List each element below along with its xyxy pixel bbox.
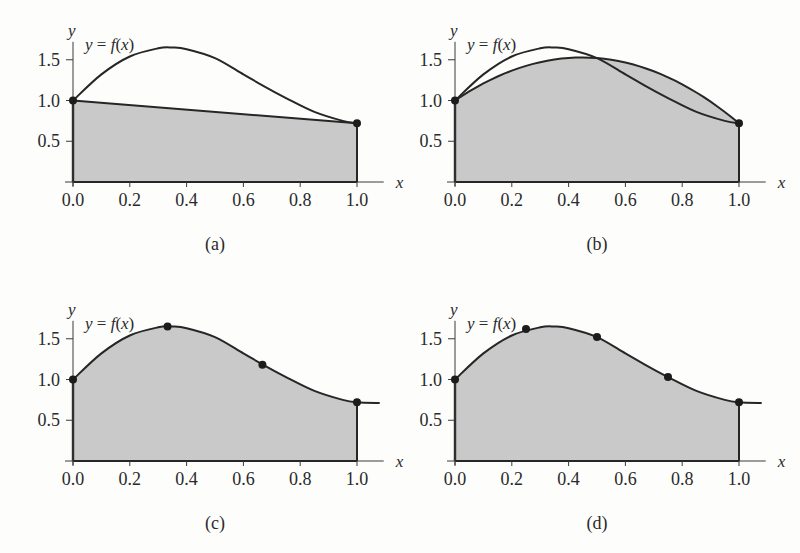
x-tick-label: 1.0	[728, 469, 751, 489]
x-tick-label: 0.2	[119, 469, 142, 489]
sample-node	[735, 398, 743, 406]
y-tick-label: 0.5	[38, 410, 61, 430]
sample-node	[522, 325, 530, 333]
x-axis-label: x	[395, 452, 404, 471]
x-tick-label: 0.0	[444, 469, 467, 489]
x-tick-label: 0.8	[671, 469, 694, 489]
x-tick-label: 0.8	[671, 190, 694, 210]
x-tick-label: 0.2	[501, 469, 524, 489]
x-tick-label: 1.0	[346, 469, 369, 489]
shaded-area	[73, 326, 357, 461]
y-tick-label: 0.5	[38, 131, 61, 151]
x-tick-label: 0.8	[289, 190, 312, 210]
panel-caption: (a)	[205, 234, 225, 255]
y-tick-label: 0.5	[420, 131, 443, 151]
y-tick-label: 1.5	[38, 329, 61, 349]
sample-node	[258, 361, 266, 369]
sample-node	[164, 323, 172, 331]
y-tick-label: 0.5	[420, 410, 443, 430]
x-tick-label: 0.0	[62, 190, 85, 210]
x-tick-label: 1.0	[728, 190, 751, 210]
x-tick-label: 0.6	[614, 469, 637, 489]
x-tick-label: 0.4	[557, 190, 580, 210]
panel-caption: (c)	[205, 513, 225, 534]
sample-node	[451, 376, 459, 384]
sample-node	[353, 398, 361, 406]
x-tick-label: 1.0	[346, 190, 369, 210]
y-tick-label: 1.5	[420, 329, 443, 349]
sample-node	[451, 97, 459, 105]
function-label: y = f(x)	[83, 314, 134, 333]
shaded-area	[455, 326, 739, 461]
x-tick-label: 0.4	[175, 190, 198, 210]
panel-caption: (b)	[587, 234, 608, 255]
y-axis-label: y	[66, 21, 76, 40]
x-tick-label: 0.8	[289, 469, 312, 489]
y-tick-label: 1.0	[420, 91, 443, 111]
figure: 0.00.20.40.60.81.00.51.01.5xyy = f(x)(a)…	[0, 0, 800, 553]
function-label: y = f(x)	[465, 35, 516, 54]
y-axis-label: y	[448, 300, 458, 319]
y-tick-label: 1.0	[420, 370, 443, 390]
sample-node	[664, 373, 672, 381]
panel-a: 0.00.20.40.60.81.00.51.01.5xyy = f(x)(a)	[38, 21, 404, 255]
panel-caption: (d)	[587, 513, 608, 534]
function-label: y = f(x)	[83, 35, 134, 54]
panel-d: 0.00.20.40.60.81.00.51.01.5xyy = f(x)(d)	[420, 300, 786, 534]
y-tick-label: 1.5	[38, 50, 61, 70]
sample-node	[593, 333, 601, 341]
y-axis-label: y	[66, 300, 76, 319]
x-tick-label: 0.0	[444, 190, 467, 210]
y-tick-label: 1.0	[38, 91, 61, 111]
y-tick-label: 1.5	[420, 50, 443, 70]
panel-c: 0.00.20.40.60.81.00.51.01.5xyy = f(x)(c)	[38, 300, 404, 534]
sample-node	[69, 376, 77, 384]
x-tick-label: 0.2	[119, 190, 142, 210]
figure-canvas: 0.00.20.40.60.81.00.51.01.5xyy = f(x)(a)…	[0, 0, 800, 553]
panel-b: 0.00.20.40.60.81.00.51.01.5xyy = f(x)(b)	[420, 21, 786, 255]
x-axis-label: x	[395, 173, 404, 192]
x-tick-label: 0.6	[232, 190, 255, 210]
function-label: y = f(x)	[465, 314, 516, 333]
x-tick-label: 0.4	[557, 469, 580, 489]
x-tick-label: 0.6	[614, 190, 637, 210]
x-tick-label: 0.0	[62, 469, 85, 489]
x-tick-label: 0.4	[175, 469, 198, 489]
sample-node	[69, 97, 77, 105]
x-tick-label: 0.6	[232, 469, 255, 489]
x-tick-label: 0.2	[501, 190, 524, 210]
sample-node	[735, 119, 743, 127]
x-axis-label: x	[777, 173, 786, 192]
sample-node	[353, 119, 361, 127]
y-tick-label: 1.0	[38, 370, 61, 390]
y-axis-label: y	[448, 21, 458, 40]
x-axis-label: x	[777, 452, 786, 471]
